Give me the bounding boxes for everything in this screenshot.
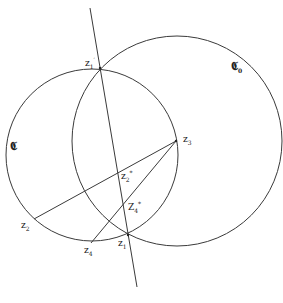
label-z4: z4 — [84, 246, 93, 257]
point-z1 — [127, 234, 129, 236]
label-z2: z2 — [21, 221, 30, 232]
diagram-canvas: z1′ 𝕮0 𝕮 z3 z2* Z4* z2 z4 z1 — [0, 0, 283, 303]
label-z2-star: z2* — [121, 170, 133, 183]
label-z4-star: Z4* — [128, 201, 141, 214]
segment-z3-z2 — [34, 141, 176, 219]
label-circle-c0: 𝕮0 — [231, 61, 242, 74]
segment-z3-z4 — [91, 141, 176, 243]
label-z3: z3 — [183, 135, 192, 146]
circle-c — [6, 69, 178, 241]
label-z1-prime: z1′ — [85, 57, 95, 70]
label-circle-c: 𝕮 — [10, 141, 17, 152]
label-z1: z1 — [118, 239, 127, 250]
point-z3 — [175, 140, 177, 142]
secant-line — [90, 8, 137, 287]
diagram-svg — [0, 0, 283, 303]
point-z1-prime — [99, 67, 101, 69]
